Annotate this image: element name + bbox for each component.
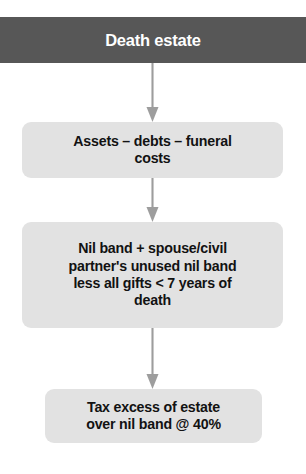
connector-assets-to-nil-band xyxy=(146,178,159,222)
node-death-estate-label: Death estate xyxy=(0,31,306,50)
node-assets-debts-funeral: Assets – debts – funeral costs xyxy=(22,122,283,178)
node-tax-excess: Tax excess of estate over nil band @ 40% xyxy=(45,389,262,443)
node-nil-band: Nil band + spouse/civil partner's unused… xyxy=(22,222,283,328)
connector-death-estate-to-assets xyxy=(146,63,159,122)
flowchart-diagram: Death estate Assets – debts – funeral co… xyxy=(0,0,306,474)
node-tax-excess-label: Tax excess of estate over nil band @ 40% xyxy=(53,399,254,434)
connector-nil-band-to-tax-excess xyxy=(146,328,159,389)
arrow-down-icon xyxy=(146,178,159,222)
node-nil-band-label: Nil band + spouse/civil partner's unused… xyxy=(30,240,275,310)
node-assets-debts-funeral-label: Assets – debts – funeral costs xyxy=(30,133,275,168)
node-death-estate: Death estate xyxy=(0,17,306,63)
arrow-down-icon xyxy=(146,328,159,389)
arrow-down-icon xyxy=(146,63,159,122)
